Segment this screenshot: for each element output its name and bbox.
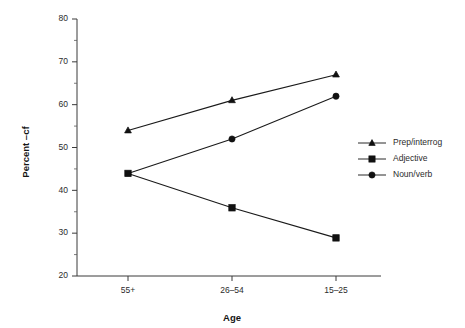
data-point-marker xyxy=(333,93,339,99)
legend-item-prep-interrog[interactable]: Prep/interrog xyxy=(358,137,442,147)
legend-item-adjective[interactable]: Adjective xyxy=(358,153,428,163)
x-axis-ticks xyxy=(128,276,336,281)
series-prep-interrog xyxy=(125,71,340,133)
circle-marker-icon xyxy=(369,172,375,178)
square-marker-icon xyxy=(369,156,375,162)
x-tick-label-55plus: 55+ xyxy=(121,285,135,295)
legend-label-noun-verb: Noun/verb xyxy=(393,169,432,179)
x-tick-label-15-25: 15–25 xyxy=(324,285,348,295)
legend-label-adjective: Adjective xyxy=(393,153,428,163)
legend-label-prep-interrog: Prep/interrog xyxy=(393,137,442,147)
data-point-marker xyxy=(229,136,235,142)
y-tick-label-40: 40 xyxy=(59,185,69,195)
legend-item-noun-verb[interactable]: Noun/verb xyxy=(358,169,432,179)
line-chart: 20 30 40 50 60 70 80 55+ 26–54 15–25 Per… xyxy=(0,0,465,328)
y-tick-label-80: 80 xyxy=(59,13,69,23)
series-adjective xyxy=(125,170,339,241)
y-tick-label-20: 20 xyxy=(59,270,69,280)
y-axis-title: Percent –cf xyxy=(20,126,31,178)
data-point-marker xyxy=(125,170,131,176)
data-point-marker xyxy=(229,205,235,211)
chart-legend: Prep/interrog Adjective Noun/verb xyxy=(358,137,442,179)
x-tick-label-26-54: 26–54 xyxy=(220,285,244,295)
x-axis-title: Age xyxy=(223,312,241,323)
chart-canvas: 20 30 40 50 60 70 80 55+ 26–54 15–25 Per… xyxy=(0,0,465,328)
series-line-noun-verb xyxy=(128,96,336,173)
y-axis-major-ticks xyxy=(72,19,77,276)
y-tick-label-60: 60 xyxy=(59,99,69,109)
y-tick-label-30: 30 xyxy=(59,227,69,237)
y-tick-label-50: 50 xyxy=(59,142,69,152)
data-point-marker xyxy=(333,71,340,77)
y-tick-label-70: 70 xyxy=(59,56,69,66)
series-noun-verb xyxy=(128,93,339,173)
data-point-marker xyxy=(333,235,339,241)
